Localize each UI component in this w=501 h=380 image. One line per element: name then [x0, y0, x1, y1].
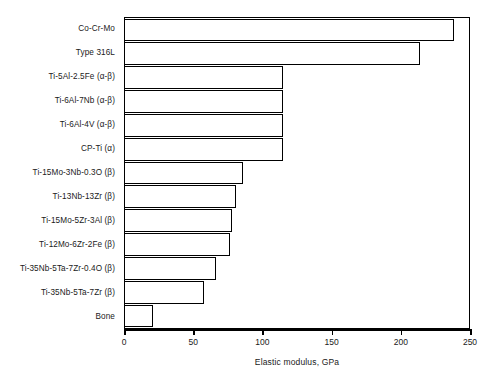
- bar: [124, 185, 236, 208]
- bar-row: [125, 113, 469, 137]
- x-axis-tick-label: 0: [122, 337, 127, 347]
- x-axis-title: Elastic modulus, GPa: [124, 357, 470, 367]
- bar: [124, 281, 204, 304]
- category-label: Ti-15Mo-3Nb-0.3O (β): [0, 161, 120, 185]
- bar-row: [125, 185, 469, 209]
- bar: [124, 233, 230, 256]
- bar-row: [125, 42, 469, 66]
- bar-row: [125, 209, 469, 233]
- category-label: Ti-35Nb-5Ta-7Zr (β): [0, 281, 120, 305]
- plot-frame: [124, 17, 470, 329]
- category-label: Ti-5Al-2.5Fe (α-β): [0, 65, 120, 89]
- bar: [124, 66, 283, 89]
- bar-row: [125, 161, 469, 185]
- bar-row: [125, 233, 469, 257]
- bar: [124, 138, 283, 161]
- x-axis-tick: [262, 329, 264, 335]
- bar-row: [125, 280, 469, 304]
- bar: [124, 19, 454, 42]
- category-axis-labels: Co-Cr-MoType 316LTi-5Al-2.5Fe (α-β)Ti-6A…: [0, 17, 120, 329]
- bar: [124, 305, 153, 328]
- category-label: Ti-12Mo-6Zr-2Fe (β): [0, 233, 120, 257]
- bar: [124, 162, 243, 185]
- bar-row: [125, 137, 469, 161]
- x-axis-tick-label: 150: [325, 337, 339, 347]
- bar: [124, 209, 232, 232]
- category-label: Type 316L: [0, 41, 120, 65]
- x-axis-tick-label: 200: [394, 337, 408, 347]
- elastic-modulus-bar-chart: Co-Cr-MoType 316LTi-5Al-2.5Fe (α-β)Ti-6A…: [0, 0, 501, 380]
- x-axis: 050100150200250: [124, 329, 470, 331]
- x-axis-tick-label: 100: [255, 337, 269, 347]
- x-axis-tick-label: 250: [463, 337, 477, 347]
- x-axis-tick: [401, 329, 403, 335]
- bar: [124, 114, 283, 137]
- category-label: Bone: [0, 305, 120, 329]
- bar-row: [125, 256, 469, 280]
- bar-row: [125, 304, 469, 328]
- bar: [124, 42, 420, 65]
- category-label: CP-Ti (α): [0, 137, 120, 161]
- x-axis-tick: [470, 329, 472, 335]
- category-label: Ti-15Mo-5Zr-3Al (β): [0, 209, 120, 233]
- category-label: Ti-6Al-7Nb (α-β): [0, 89, 120, 113]
- bar: [124, 90, 283, 113]
- bar-row: [125, 66, 469, 90]
- bar: [124, 257, 216, 280]
- category-label: Ti-35Nb-5Ta-7Zr-0.4O (β): [0, 257, 120, 281]
- x-axis-tick: [124, 329, 126, 335]
- x-axis-tick: [332, 329, 334, 335]
- category-label: Ti-13Nb-13Zr (β): [0, 185, 120, 209]
- x-axis-tick: [193, 329, 195, 335]
- bar-row: [125, 18, 469, 42]
- x-axis-tick-label: 50: [188, 337, 197, 347]
- category-label: Ti-6Al-4V (α-β): [0, 113, 120, 137]
- bar-row: [125, 90, 469, 114]
- bars-area: [125, 18, 469, 328]
- category-label: Co-Cr-Mo: [0, 17, 120, 41]
